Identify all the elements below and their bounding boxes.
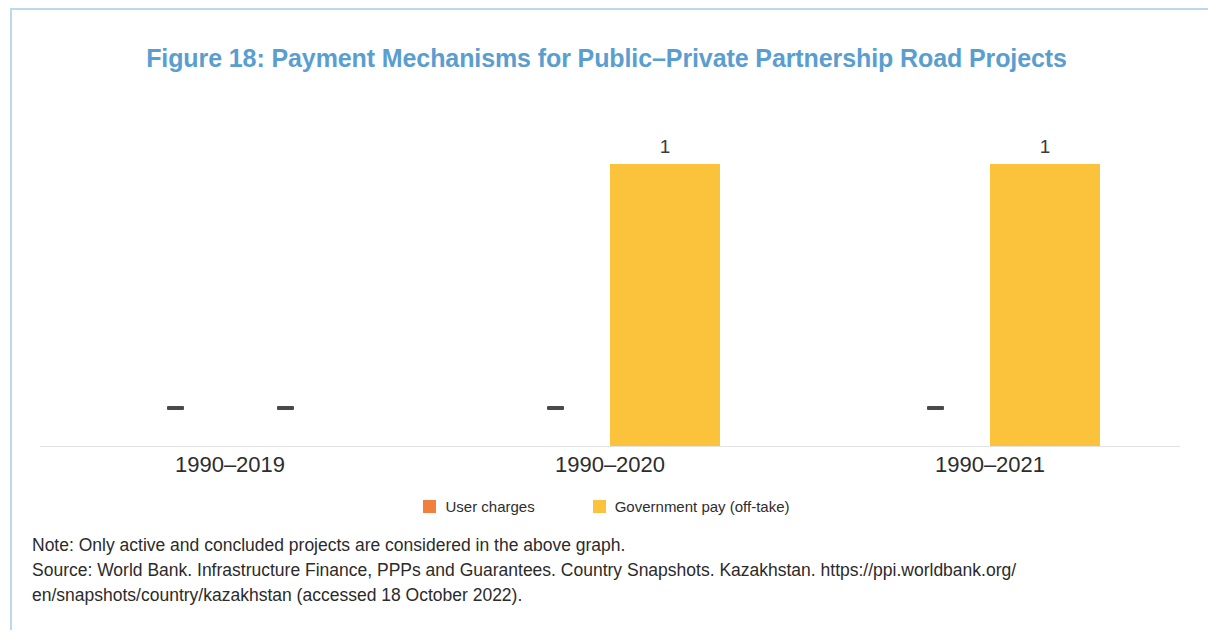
top-divider: [10, 8, 1208, 10]
bar-group: 1: [800, 92, 1180, 446]
x-axis-tick-label: 1990–2019: [40, 452, 420, 478]
bar-rect[interactable]: [990, 164, 1100, 446]
bar-government-pay[interactable]: 1: [610, 92, 720, 446]
bar-user-charges[interactable]: [120, 92, 230, 446]
bar-value-label: 1: [1040, 137, 1051, 156]
zero-dash-icon: [927, 406, 944, 410]
figure-title: Figure 18: Payment Mechanisms for Public…: [0, 44, 1213, 73]
x-axis-line: [40, 446, 1180, 447]
legend-label: Government pay (off-take): [615, 498, 790, 515]
zero-dash-icon: [547, 406, 564, 410]
source-text-line-1: Source: World Bank. Infrastructure Finan…: [32, 558, 1192, 583]
left-divider: [10, 8, 12, 630]
x-axis-tick-label: 1990–2020: [420, 452, 800, 478]
legend-swatch-icon: [593, 500, 606, 513]
legend-label: User charges: [445, 498, 534, 515]
bar-user-charges[interactable]: [880, 92, 990, 446]
x-axis-category-labels: 1990–2019 1990–2020 1990–2021: [40, 452, 1180, 478]
legend-swatch-icon: [423, 500, 436, 513]
figure-page: Figure 18: Payment Mechanisms for Public…: [0, 0, 1213, 643]
bar-user-charges[interactable]: [500, 92, 610, 446]
bar-government-pay[interactable]: 1: [990, 92, 1100, 446]
bar-group: [40, 92, 420, 446]
figure-footnotes: Note: Only active and concluded projects…: [32, 533, 1192, 608]
x-axis-tick-label: 1990–2021: [800, 452, 1180, 478]
bar-value-label: 1: [660, 137, 671, 156]
source-text-line-2: en/snapshots/country/kazakhstan (accesse…: [32, 583, 1192, 608]
legend-item-user-charges[interactable]: User charges: [423, 498, 534, 515]
zero-dash-icon: [167, 406, 184, 410]
chart-plot-area: 1 1: [40, 92, 1180, 447]
bar-group: 1: [420, 92, 800, 446]
bar-rect[interactable]: [610, 164, 720, 446]
note-text: Note: Only active and concluded projects…: [32, 533, 1192, 558]
bar-groups: 1 1: [40, 92, 1180, 446]
bar-government-pay[interactable]: [230, 92, 340, 446]
legend-item-government-pay[interactable]: Government pay (off-take): [593, 498, 790, 515]
zero-dash-icon: [277, 406, 294, 410]
chart-legend: User charges Government pay (off-take): [0, 498, 1213, 515]
